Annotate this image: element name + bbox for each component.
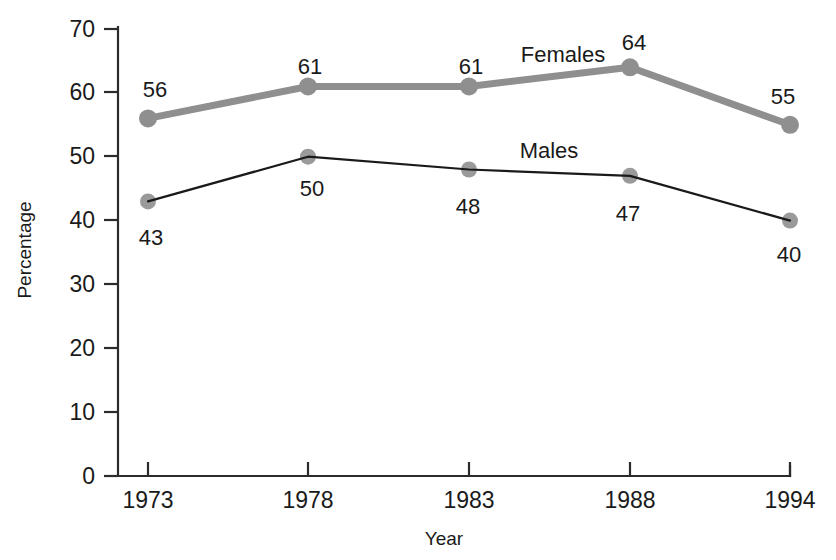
x-tick-label-1983: 1983 [443,487,494,513]
y-axis-tick-labels: 70 60 50 40 30 20 10 0 [69,16,95,489]
y-tick-label-40: 40 [69,207,95,233]
y-tick-label-20: 20 [69,335,95,361]
data-label-males-1994: 40 [777,242,801,267]
data-point-females-1994 [781,116,799,134]
x-axis-tick-labels: 1973 1978 1983 1988 1994 [122,487,815,513]
y-tick-label-10: 10 [69,399,95,425]
data-label-males-1983: 48 [456,194,480,219]
y-tick-label-0: 0 [82,463,95,489]
y-tick-label-50: 50 [69,143,95,169]
series-annotation-males: Males [520,138,579,163]
x-axis-title: Year [425,528,464,549]
data-label-males-1978: 50 [300,176,324,201]
x-tick-label-1973: 1973 [122,487,173,513]
y-axis-ticks [104,29,118,476]
line-chart-figure: 70 60 50 40 30 20 10 0 1973 1978 1983 19… [0,0,836,560]
series-males-data-labels: 4350484740 [139,176,801,267]
series-males: 4350484740 Males [139,138,801,267]
data-label-females-1978: 61 [298,54,322,79]
data-label-females-1983: 61 [459,54,483,79]
data-label-females-1994: 55 [771,84,795,109]
x-tick-label-1994: 1994 [764,487,815,513]
x-tick-label-1978: 1978 [282,487,333,513]
y-tick-label-60: 60 [69,79,95,105]
data-label-males-1973: 43 [139,225,163,250]
y-tick-label-30: 30 [69,271,95,297]
data-label-males-1988: 47 [616,201,640,226]
data-point-females-1973 [139,109,157,127]
x-tick-label-1988: 1988 [604,487,655,513]
data-point-females-1988 [621,58,639,76]
data-label-females-1973: 56 [143,77,167,102]
data-label-females-1988: 64 [622,30,646,55]
y-tick-label-70: 70 [69,16,95,42]
chart-canvas: 70 60 50 40 30 20 10 0 1973 1978 1983 19… [0,0,836,560]
data-point-females-1983 [460,77,478,95]
y-axis-title: Percentage [14,201,35,298]
x-axis-ticks [148,462,790,476]
data-point-females-1978 [299,77,317,95]
series-females: 5661616455 Females [139,30,799,134]
series-annotation-females: Females [521,42,605,67]
